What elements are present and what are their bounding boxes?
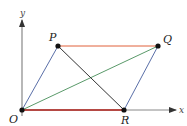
label-O: O: [9, 113, 18, 126]
y-axis-label: y: [19, 8, 26, 18]
point-Q: [155, 43, 160, 48]
segment-OQ: [22, 46, 158, 110]
point-P: [55, 43, 60, 48]
label-R: R: [120, 114, 129, 126]
segment-OP: [22, 46, 58, 110]
label-P: P: [48, 31, 57, 44]
parallelogram-diagram: y x O P Q R: [0, 0, 187, 126]
segment-PR: [58, 46, 124, 110]
segment-RQ: [124, 46, 158, 110]
label-Q: Q: [163, 33, 172, 46]
point-O: [19, 107, 24, 112]
point-R: [121, 107, 126, 112]
x-axis-label: x: [179, 105, 184, 115]
